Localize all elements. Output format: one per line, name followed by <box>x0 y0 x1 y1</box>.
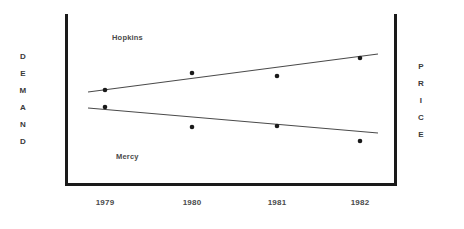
chart-figure: D E M A N D P R I C E <box>0 0 464 229</box>
markers-mercy <box>103 105 363 144</box>
x-tick-label-1981: 1981 <box>257 198 297 207</box>
x-tick-label-1982: 1982 <box>340 198 380 207</box>
data-point <box>190 71 195 76</box>
data-point <box>275 74 280 79</box>
trendline-mercy <box>88 108 378 133</box>
x-tick-label-1979: 1979 <box>85 198 125 207</box>
series-hopkins <box>88 54 378 92</box>
plot-area <box>0 0 464 229</box>
data-point <box>103 88 108 93</box>
series-mercy <box>88 105 378 144</box>
series-label-mercy: Mercy <box>116 152 139 161</box>
data-point <box>358 56 363 61</box>
x-tick-label-1980: 1980 <box>172 198 212 207</box>
data-point <box>275 124 280 129</box>
data-point <box>103 105 108 110</box>
data-point <box>358 139 363 144</box>
trendline-hopkins <box>88 54 378 92</box>
data-point <box>190 125 195 130</box>
series-label-hopkins: Hopkins <box>112 33 143 42</box>
